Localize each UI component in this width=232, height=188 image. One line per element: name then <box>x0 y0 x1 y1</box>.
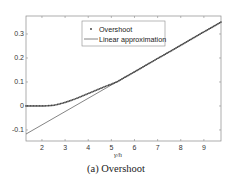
overshoot-chart: 23456789-0.100.10.20.3 γ/h Overshoot Lin… <box>0 0 232 188</box>
legend-marker-overshoot-icon <box>90 28 92 30</box>
x-tick-label: 9 <box>202 144 206 151</box>
legend: Overshoot Linear approximation <box>82 21 166 46</box>
x-tick-label: 3 <box>63 144 67 151</box>
legend-label-linear: Linear approximation <box>99 35 166 44</box>
figure-caption: (a) Overshoot <box>0 163 232 174</box>
legend-label-overshoot: Overshoot <box>99 25 132 34</box>
x-tick-label: 5 <box>109 144 113 151</box>
x-tick-label: 6 <box>133 144 137 151</box>
y-tick-label: 0 <box>20 102 24 109</box>
x-tick-label: 8 <box>179 144 183 151</box>
x-tick-label: 4 <box>86 144 90 151</box>
x-axis-label: γ/h <box>114 151 123 159</box>
y-tick-label: 0.2 <box>14 54 24 61</box>
x-tick-label: 2 <box>40 144 44 151</box>
y-tick-label: 0.1 <box>14 78 24 85</box>
x-tick-label: 7 <box>156 144 160 151</box>
y-tick-label: 0.3 <box>14 30 24 37</box>
y-tick-label: -0.1 <box>12 126 24 133</box>
